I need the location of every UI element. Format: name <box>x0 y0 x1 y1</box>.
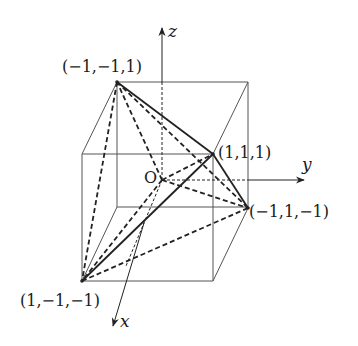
z-axis-label: z <box>167 21 178 41</box>
y-axis-label: y <box>301 154 312 174</box>
vertex-label-top-back-left: (−1,−1,1) <box>62 57 142 76</box>
vertex-label-bottom-front-left: (1,−1,−1) <box>20 291 100 310</box>
x-axis-label: x <box>120 311 130 331</box>
cube-diagram: (−1,−1,1) (1,1,1) (−1,1,−1) (1,−1,−1) O … <box>0 0 358 346</box>
tetrahedron-dashed-edges <box>82 82 248 281</box>
vertex-label-top-front-right: (1,1,1) <box>218 143 271 162</box>
vertex-label-bottom-back-right: (−1,1,−1) <box>249 202 329 221</box>
origin-label: O <box>144 168 157 187</box>
